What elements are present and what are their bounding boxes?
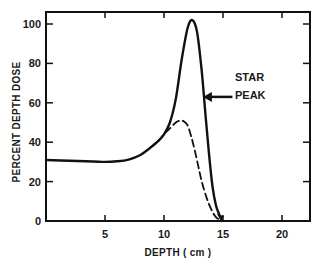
y-tick-label: 0 <box>35 215 41 227</box>
y-tick-label: 100 <box>23 18 41 30</box>
x-axis-ticks: 5101520 <box>102 12 288 240</box>
star-peak-curve <box>46 20 222 221</box>
depth-dose-chart: 5101520 020406080100 DEPTH ( cm ) PERCEN… <box>0 0 323 267</box>
x-axis-title: DEPTH ( cm ) <box>145 247 212 258</box>
y-tick-label: 40 <box>29 136 41 148</box>
y-axis-ticks: 020406080100 <box>23 18 310 227</box>
x-tick-label: 15 <box>217 228 229 240</box>
y-axis-title: PERCENT DEPTH DOSE <box>11 61 22 182</box>
y-tick-label: 20 <box>29 176 41 188</box>
x-tick-label: 20 <box>276 228 288 240</box>
x-tick-label: 10 <box>158 228 170 240</box>
x-tick-label: 5 <box>102 228 108 240</box>
y-tick-label: 60 <box>29 97 41 109</box>
y-tick-label: 80 <box>29 57 41 69</box>
annotation-arrow-icon <box>203 92 233 102</box>
data-series <box>46 20 224 221</box>
annotation-peak: PEAK <box>235 89 266 101</box>
plot-frame <box>46 12 310 221</box>
annotation-star: STAR <box>235 71 264 83</box>
